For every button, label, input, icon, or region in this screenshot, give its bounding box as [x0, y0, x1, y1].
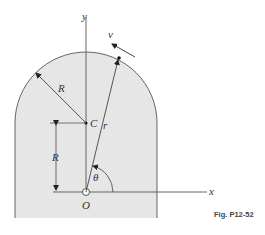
figure-diagram: y x O C R R r v θ Fig. P12-52: [0, 0, 265, 235]
height-label: R: [51, 151, 59, 163]
position-vector-label: r: [103, 119, 108, 131]
y-axis-label: y: [81, 10, 87, 22]
angle-label: θ: [93, 171, 99, 183]
origin-label: O: [82, 199, 90, 211]
particle-point: [117, 56, 121, 60]
radius-label: R: [57, 82, 65, 94]
center-label: C: [90, 117, 98, 129]
x-axis-label: x: [208, 185, 214, 197]
velocity-label: v: [108, 28, 113, 40]
velocity-arrow: [112, 44, 135, 57]
figure-caption: Fig. P12-52: [214, 210, 254, 219]
